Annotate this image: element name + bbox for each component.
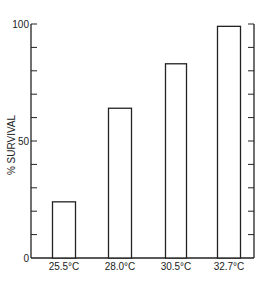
- bar-chart: 050100% SURVIVAL25.5°C28.0°C30.5°C32.7°C: [0, 0, 269, 281]
- y-tick-label: 0: [23, 253, 29, 264]
- y-tick-label: 100: [12, 19, 29, 30]
- x-category-label: 28.0°C: [105, 261, 136, 272]
- y-tick-label: 50: [18, 136, 30, 147]
- bar: [53, 202, 76, 258]
- x-category-label: 30.5°C: [161, 261, 192, 272]
- x-category-label: 25.5°C: [49, 261, 80, 272]
- bar: [166, 64, 187, 258]
- bars: [53, 26, 241, 258]
- bar: [109, 108, 132, 258]
- y-axis-title: % SURVIVAL: [6, 114, 17, 175]
- x-category-label: 32.7°C: [214, 261, 245, 272]
- bar: [218, 26, 241, 258]
